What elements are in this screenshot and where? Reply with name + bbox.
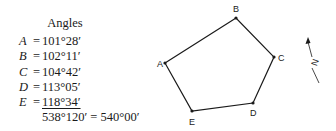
vertex-point-a <box>163 61 166 64</box>
vertex-label-e: E <box>189 117 195 127</box>
vertex-point-c <box>272 55 275 58</box>
north-label: N <box>309 58 321 68</box>
north-arrow-icon: N <box>306 37 321 83</box>
vertex-label-c: C <box>278 53 285 63</box>
pentagon-traverse <box>165 18 274 111</box>
vertex-label-b: B <box>233 4 239 14</box>
vertex-point-d <box>251 101 254 104</box>
vertex-label-a: A <box>157 59 163 69</box>
vertex-point-b <box>234 16 237 19</box>
vertex-label-d: D <box>250 108 257 118</box>
polygon-diagram: A B C D E N <box>0 0 336 131</box>
vertex-point-e <box>190 109 193 112</box>
